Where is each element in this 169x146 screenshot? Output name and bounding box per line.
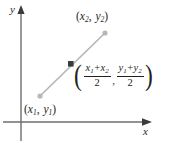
y-axis xyxy=(17,5,24,141)
formula-y-numerator: y1+y2 xyxy=(117,62,144,76)
x-axis-label: x xyxy=(143,126,148,137)
x-axis xyxy=(3,118,152,126)
point-label-p2: (x2, y2) xyxy=(76,11,108,24)
p1-comma: , xyxy=(37,103,40,115)
formula-y-fraction: y1+y2 2 xyxy=(117,62,144,88)
formula-separator: , xyxy=(112,74,115,88)
point-label-p1: (x1, y1) xyxy=(24,104,56,117)
midpoint-formula-label: ( x1+x2 2 , y1+y2 2 ) xyxy=(73,62,154,88)
formula-x-operator: + xyxy=(94,62,100,73)
p1-close-paren: ) xyxy=(52,103,56,115)
p2-comma: , xyxy=(89,10,92,22)
formula-close-paren: ) xyxy=(145,63,153,88)
formula-x-fraction: x1+x2 2 xyxy=(84,62,111,88)
formula-x-denominator: 2 xyxy=(95,77,100,89)
formula-x-numerator: x1+x2 xyxy=(84,62,111,76)
formula-y-denominator: 2 xyxy=(128,77,133,89)
endpoint-p1-dot xyxy=(37,93,42,98)
formula-open-paren: ( xyxy=(74,63,82,88)
formula-y-operator: + xyxy=(127,62,133,73)
formula-y-num-second-sub: 2 xyxy=(138,67,142,75)
midpoint-formula-figure: y x (x2, y2) (x1, y1) ( x1+x2 2 , y1+y2 … xyxy=(0,0,169,146)
p2-close-paren: ) xyxy=(104,10,108,22)
formula-x-num-second-sub: 2 xyxy=(105,67,109,75)
endpoint-p2-dot xyxy=(102,30,107,35)
y-axis-label: y xyxy=(10,4,15,15)
